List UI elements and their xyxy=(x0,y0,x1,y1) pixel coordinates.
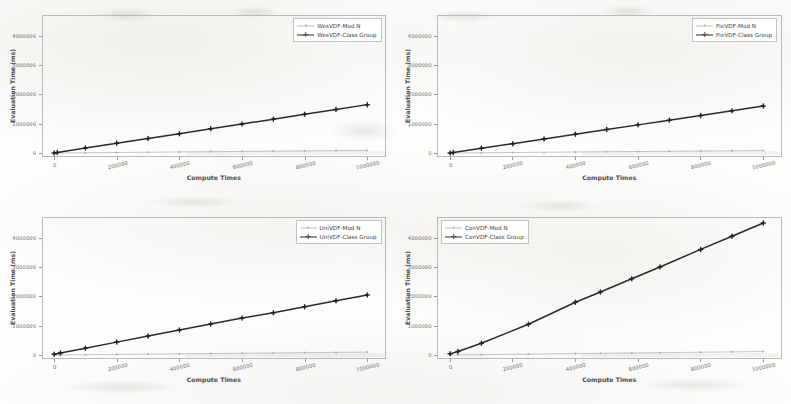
data-point-marker xyxy=(84,354,86,356)
chart-grid: 0100000020000003000000400000002000004000… xyxy=(0,0,791,404)
data-point-marker xyxy=(115,340,119,344)
data-point-marker xyxy=(527,353,529,355)
data-point-marker xyxy=(304,150,306,152)
legend-circle-marker-icon: • xyxy=(300,224,317,232)
data-point-marker xyxy=(510,142,514,146)
chart-panel-top-right: 0100000020000003000000400000002000004000… xyxy=(396,0,791,202)
chart-legend: •ConVDF-Mod N✛ConVDF-Class Group xyxy=(441,220,529,244)
data-point-marker xyxy=(271,311,275,315)
data-point-marker xyxy=(630,352,632,354)
data-point-marker xyxy=(240,316,244,320)
data-point-marker xyxy=(271,117,275,121)
data-point-marker xyxy=(209,127,213,131)
legend-entry: ✛UniVDF-Class Group xyxy=(300,232,377,241)
data-point-marker xyxy=(147,151,149,153)
data-point-marker xyxy=(52,352,56,356)
data-point-marker xyxy=(146,137,150,141)
legend-plus-marker-icon: ✛ xyxy=(445,233,462,241)
data-point-marker xyxy=(147,353,149,355)
legend-label: UniVDF-Class Group xyxy=(320,234,377,240)
data-point-marker xyxy=(542,137,546,141)
data-point-marker xyxy=(761,104,765,108)
data-point-marker xyxy=(365,293,369,297)
data-point-marker xyxy=(698,113,702,117)
data-point-marker xyxy=(116,151,118,153)
data-point-marker xyxy=(272,352,274,354)
data-point-marker xyxy=(146,334,150,338)
chart-panel-bottom-left: 0100000020000003000000400000002000004000… xyxy=(0,202,396,404)
legend-entry: •UniVDF-Mod N xyxy=(300,223,377,232)
data-point-marker xyxy=(604,128,608,132)
legend-label: PieVDF-Class Group xyxy=(716,32,772,38)
data-point-marker xyxy=(84,152,86,154)
data-point-marker xyxy=(667,118,671,122)
data-point-marker xyxy=(335,351,337,353)
chart-panel-top-left: 0100000020000003000000400000002000004000… xyxy=(0,0,396,202)
chart-legend: •UniVDF-Mod N✛UniVDF-Class Group xyxy=(296,220,382,244)
data-point-marker xyxy=(599,352,601,354)
series-line xyxy=(450,352,763,356)
data-point-marker xyxy=(636,150,638,152)
data-point-marker xyxy=(83,346,87,350)
legend-plus-marker-icon: ✛ xyxy=(300,233,317,241)
legend-circle-marker-icon: • xyxy=(297,22,314,30)
data-point-marker xyxy=(303,112,307,116)
chart-panel-bottom-right: 0100000020000003000000400000002000004000… xyxy=(396,202,791,404)
data-point-marker xyxy=(480,152,482,154)
data-point-marker xyxy=(366,351,368,353)
legend-circle-marker-icon: • xyxy=(445,224,462,232)
data-point-marker xyxy=(209,322,213,326)
data-point-marker xyxy=(730,351,732,353)
legend-entry: ✛WesVDF-Class Group xyxy=(297,30,376,39)
data-point-marker xyxy=(451,151,455,155)
data-point-marker xyxy=(574,353,576,355)
legend-label: UniVDF-Mod N xyxy=(320,225,361,231)
data-point-marker xyxy=(366,149,368,151)
chart-legend: •PieVDF-Mod N✛PieVDF-Class Group xyxy=(692,18,777,42)
data-point-marker xyxy=(729,109,733,113)
legend-entry: •PieVDF-Mod N xyxy=(696,21,772,30)
data-point-marker xyxy=(178,151,180,153)
data-point-marker xyxy=(304,352,306,354)
data-point-marker xyxy=(335,150,337,152)
legend-label: WesVDF-Mod N xyxy=(317,23,360,29)
data-point-marker xyxy=(574,151,576,153)
data-point-marker xyxy=(699,150,701,152)
data-point-marker xyxy=(177,132,181,136)
legend-entry: ✛ConVDF-Class Group xyxy=(445,232,524,241)
data-point-marker xyxy=(210,151,212,153)
data-point-marker xyxy=(479,146,483,150)
data-point-marker xyxy=(479,341,483,345)
data-point-marker xyxy=(762,149,764,151)
data-point-marker xyxy=(658,352,660,354)
data-point-marker xyxy=(542,151,544,153)
legend-entry: •WesVDF-Mod N xyxy=(297,21,376,30)
data-point-marker xyxy=(116,353,118,355)
data-point-marker xyxy=(480,354,482,356)
data-point-marker xyxy=(334,299,338,303)
legend-label: PieVDF-Mod N xyxy=(716,23,756,29)
legend-circle-marker-icon: • xyxy=(696,22,713,30)
data-point-marker xyxy=(511,151,513,153)
data-point-marker xyxy=(334,107,338,111)
data-point-marker xyxy=(762,350,764,352)
legend-plus-marker-icon: ✛ xyxy=(696,31,713,39)
data-point-marker xyxy=(55,151,59,155)
chart-legend: •WesVDF-Mod N✛WesVDF-Class Group xyxy=(293,18,381,42)
data-point-marker xyxy=(699,351,701,353)
legend-label: ConVDF-Class Group xyxy=(465,234,524,240)
data-point-marker xyxy=(605,151,607,153)
data-point-marker xyxy=(455,350,459,354)
legend-entry: ✛PieVDF-Class Group xyxy=(696,30,772,39)
data-point-marker xyxy=(240,122,244,126)
data-point-marker xyxy=(58,351,62,355)
data-point-marker xyxy=(573,132,577,136)
data-point-marker xyxy=(303,305,307,309)
legend-label: ConVDF-Mod N xyxy=(465,225,508,231)
legend-label: WesVDF-Class Group xyxy=(317,32,376,38)
legend-entry: •ConVDF-Mod N xyxy=(445,223,524,232)
data-point-marker xyxy=(636,123,640,127)
data-point-marker xyxy=(365,103,369,107)
data-point-marker xyxy=(210,352,212,354)
data-point-marker xyxy=(241,352,243,354)
